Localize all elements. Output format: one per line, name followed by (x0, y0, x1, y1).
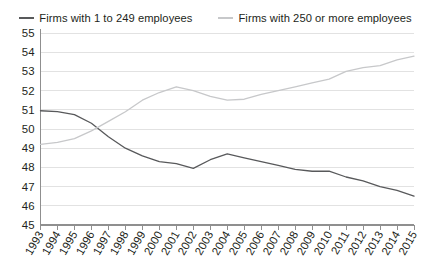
x-axis-labels-group: 1993199419951996199719981999200020012002… (23, 229, 420, 257)
y-axis-tick-label: 53 (22, 65, 35, 77)
line-chart-svg: 4546474849505152535455 19931994199519961… (0, 0, 431, 268)
chart-root: Firms with 1 to 249 employees Firms with… (0, 0, 431, 268)
y-axis-tick-label: 45 (22, 219, 35, 231)
y-axis-tick-label: 49 (22, 142, 35, 154)
y-axis-tick-label: 46 (22, 200, 35, 212)
y-axis-tick-label: 50 (22, 123, 35, 135)
x-axis-tick-label: 2010 (311, 229, 334, 257)
x-axis-tick-label: 2015 (396, 229, 419, 257)
series-group (41, 56, 415, 196)
y-axis-tick-label: 51 (22, 104, 35, 116)
y-axis-tick-label: 47 (22, 181, 35, 193)
y-axis-labels-group: 4546474849505152535455 (22, 27, 35, 231)
series-line-large-firms (41, 56, 415, 144)
y-axis-tick-label: 48 (22, 161, 35, 173)
y-axis-tick-label: 54 (22, 46, 35, 58)
plot-area: 4546474849505152535455 19931994199519961… (0, 0, 431, 268)
series-line-small-firms (41, 111, 415, 196)
y-axis-tick-label: 52 (22, 85, 35, 97)
y-axis-tick-label: 55 (22, 27, 35, 39)
